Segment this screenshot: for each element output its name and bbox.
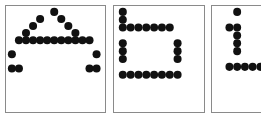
dot — [64, 22, 72, 30]
dot — [43, 36, 51, 44]
dot — [233, 8, 241, 16]
dot — [36, 36, 44, 44]
dot — [119, 71, 127, 79]
dot — [71, 36, 79, 44]
dot — [134, 24, 142, 32]
dot — [233, 47, 241, 55]
dot — [8, 64, 16, 72]
dot — [57, 15, 65, 23]
dot — [36, 15, 44, 23]
dot-letter-figure — [0, 0, 261, 118]
dot — [50, 8, 58, 16]
dot — [142, 71, 150, 79]
dot — [174, 47, 182, 55]
dot — [71, 29, 79, 37]
dot — [127, 71, 135, 79]
dot — [29, 36, 37, 44]
dot — [142, 24, 150, 32]
dot — [256, 63, 261, 71]
dot — [127, 24, 135, 32]
dot — [93, 64, 101, 72]
dot — [166, 24, 174, 32]
dot — [166, 71, 174, 79]
dot — [119, 39, 127, 47]
dot — [174, 71, 182, 79]
dot — [64, 36, 72, 44]
dot — [15, 36, 23, 44]
dot — [93, 50, 101, 58]
dot — [119, 47, 127, 55]
dot — [225, 24, 233, 32]
dot-grid-h — [114, 6, 204, 112]
dot — [249, 63, 257, 71]
dot — [50, 36, 58, 44]
dot — [174, 55, 182, 63]
panel-letter-i — [211, 5, 261, 113]
dot — [8, 50, 16, 58]
dot — [158, 71, 166, 79]
dot — [134, 71, 142, 79]
dot — [85, 36, 93, 44]
dot — [158, 24, 166, 32]
dot — [119, 8, 127, 16]
dot — [233, 39, 241, 47]
dot — [241, 63, 249, 71]
dot — [22, 36, 30, 44]
dot-grid-i — [212, 6, 261, 112]
dot — [233, 31, 241, 39]
dot — [150, 71, 158, 79]
dot — [119, 24, 127, 32]
dot — [29, 22, 37, 30]
dot — [57, 36, 65, 44]
dot — [15, 64, 23, 72]
dot — [22, 29, 30, 37]
panel-letter-h — [113, 5, 205, 113]
dot-grid-a — [6, 6, 105, 112]
dot — [78, 36, 86, 44]
dot — [225, 63, 233, 71]
dot — [233, 24, 241, 32]
dot — [233, 63, 241, 71]
dot — [150, 24, 158, 32]
dot — [85, 64, 93, 72]
dot — [119, 55, 127, 63]
dot — [174, 39, 182, 47]
panel-letter-a — [5, 5, 106, 113]
dot — [119, 16, 127, 24]
